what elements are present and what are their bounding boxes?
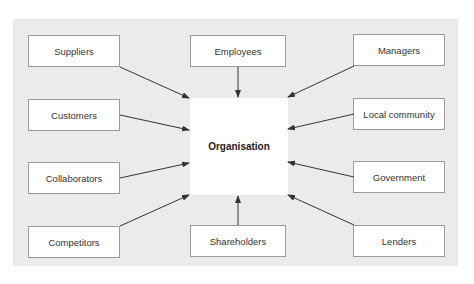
- arrow-customers: [120, 115, 189, 130]
- arrow-managers: [288, 66, 354, 97]
- arrow-collaborators: [120, 163, 189, 178]
- arrows-layer: [0, 0, 474, 284]
- arrow-competitors: [120, 195, 189, 226]
- arrow-suppliers: [120, 67, 189, 98]
- arrow-lenders: [288, 195, 354, 225]
- arrow-government: [288, 162, 354, 177]
- arrow-local-community: [288, 114, 354, 129]
